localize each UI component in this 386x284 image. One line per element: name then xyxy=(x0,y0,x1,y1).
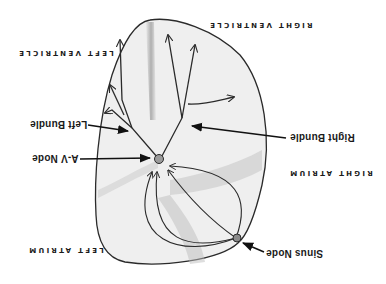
label-left-ventricle: LEFT VENTRICLE xyxy=(17,49,114,57)
label-right-bundle: Right Bundle xyxy=(290,132,355,143)
label-right-ventricle: RIGHT VENTRICLE xyxy=(208,21,313,29)
label-left-bundle: Left Bundle xyxy=(30,119,87,130)
label-av-node: A-V Node xyxy=(32,153,79,164)
heart-conduction-diagram: RIGHT VENTRICLE LEFT VENTRICLE RIGHT ATR… xyxy=(0,0,386,284)
label-left-atrium: LEFT ATRIUM xyxy=(27,246,104,254)
av-node xyxy=(155,155,164,164)
sinus-node xyxy=(233,234,241,242)
label-right-atrium: RIGHT ATRIUM xyxy=(288,169,373,177)
label-sinus-node: Sinus Node xyxy=(266,248,323,259)
